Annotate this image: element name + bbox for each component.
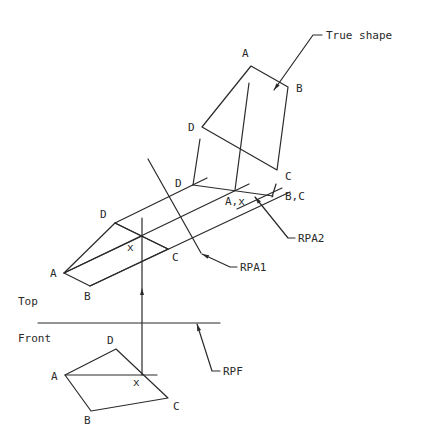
auxiliary-vertex-label: A,x [225,195,245,208]
true-shape-vertex-label: A [242,47,249,60]
top-view-outline [64,223,168,286]
reference-plane-label-rpa2: RPA2 [298,232,325,245]
auxiliary-projector-line [64,184,249,273]
orthographic-drawing: ADCBxTopADCBxFrontDA,xB,CABCDRPFRPA1RPA2… [0,0,444,447]
front-vertex-label: B [84,414,91,427]
top-point-x-label: x [127,241,134,254]
true-shape-callout-label: True shape [326,29,392,42]
top-vertex-label: A [50,267,57,280]
front-vertex-label: D [107,334,114,347]
true-shape-vertex-label: B [296,82,303,95]
true-shape-vertex-label: C [285,170,292,183]
true-shape-vertex-label: D [188,121,195,134]
auxiliary-vertex-label: B,C [285,190,305,203]
top-view-label: Top [18,295,38,308]
front-view-outline [65,349,168,411]
leader-rpf [197,324,220,371]
view-outlines [64,66,288,411]
projector-arrow-icon [140,288,144,295]
leader-arrow-icon [202,254,209,259]
drawing-svg: ADCBxTopADCBxFrontDA,xB,CABCDRPFRPA1RPA2… [0,0,444,447]
top-vertex-label: C [172,251,179,264]
true-shape-projector-line [193,139,200,185]
front-vertex-label: A [51,370,58,383]
top-vertex-label: D [100,208,107,221]
labels: ADCBxTopADCBxFrontDA,xB,CABCDRPFRPA1RPA2… [18,29,392,427]
construction-lines [38,35,322,375]
reference-plane-label-rpa1: RPA1 [240,261,267,274]
leader-arrow-icon [197,324,201,331]
true-shape-projector-line [235,83,249,190]
front-point-x-label: x [133,376,140,389]
front-view-label: Front [18,332,51,345]
reference-plane-label-rpf: RPF [223,365,243,378]
auxiliary-vertex-label: D [175,177,182,190]
reference-plane-rpa1 [148,159,201,253]
top-vertex-label: B [84,290,91,303]
leader-rpa2 [255,197,295,238]
front-vertex-label: C [173,400,180,413]
